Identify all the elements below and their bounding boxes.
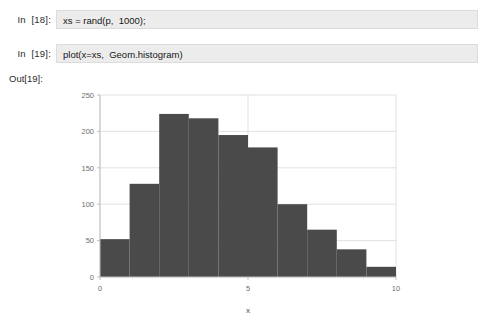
code-input-in-18[interactable]: xs = rand(p, 1000);	[56, 10, 478, 29]
notebook-document: In [18]: xs = rand(p, 1000); In [19]: pl…	[0, 0, 497, 325]
x-axis-title: x	[246, 306, 250, 315]
histogram-bar	[366, 267, 396, 277]
cell-prompt-out-19: Out[19]:	[0, 72, 56, 86]
cell-prompt-in-19: In [19]:	[0, 44, 56, 63]
notebook-cell-in-19[interactable]: In [19]: plot(x=xs, Geom.histogram)	[0, 44, 478, 63]
histogram-bar	[248, 147, 278, 277]
x-tick-label: 5	[246, 284, 250, 293]
histogram-bar	[307, 230, 337, 277]
x-tick-label: 10	[392, 284, 400, 293]
histogram-bar	[189, 118, 219, 277]
y-tick-label: 250	[81, 91, 94, 100]
y-tick-label: 100	[81, 200, 94, 209]
histogram-bar	[100, 239, 130, 277]
cell-prompt-in-18: In [18]:	[0, 10, 56, 29]
notebook-cell-in-18[interactable]: In [18]: xs = rand(p, 1000);	[0, 10, 478, 29]
code-input-in-19[interactable]: plot(x=xs, Geom.histogram)	[56, 44, 478, 63]
y-tick-label: 200	[81, 127, 94, 136]
histogram-chart: 0501001502002500510 x	[0, 85, 497, 325]
histogram-bar	[159, 114, 189, 277]
histogram-bar	[337, 249, 367, 277]
histogram-bar	[130, 184, 160, 277]
y-tick-label: 0	[90, 273, 94, 282]
histogram-plot-output: 0501001502002500510 x	[0, 85, 497, 325]
y-tick-label: 150	[81, 164, 94, 173]
histogram-bar	[218, 135, 248, 277]
x-tick-label: 0	[98, 284, 102, 293]
y-tick-label: 50	[86, 236, 94, 245]
chart-bars	[100, 114, 396, 277]
histogram-bar	[278, 204, 308, 277]
